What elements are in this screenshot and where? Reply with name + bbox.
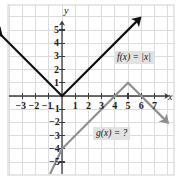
y-tick-label: −4: [49, 144, 60, 154]
coordinate-plane: [0, 0, 177, 177]
x-tick-label: 3: [99, 101, 104, 111]
y-tick-label: 3: [54, 51, 59, 61]
y-tick-label: −2: [49, 117, 60, 127]
y-tick-label: 2: [54, 65, 59, 75]
f-function-label: f(x) = |x|: [114, 51, 154, 64]
x-axis-label: x: [168, 92, 172, 102]
x-tick-label: 1: [73, 101, 78, 111]
x-tick-label: 5: [126, 101, 131, 111]
y-tick-label: 4: [54, 38, 59, 48]
y-tick-label: −1: [49, 104, 60, 114]
y-tick-label: 1: [54, 78, 59, 88]
x-tick-label: −2: [29, 101, 40, 111]
x-tick-label: 6: [139, 101, 144, 111]
x-tick-label: 2: [86, 101, 91, 111]
x-tick-label: 7: [152, 101, 157, 111]
g-function-label: g(x) = ?: [93, 127, 130, 140]
y-tick-label: −5: [49, 157, 60, 167]
graph-figure: y x −3−2−11234567 54321−1−2−3−4−5 f(x) =…: [0, 0, 177, 177]
x-tick-label: −3: [15, 101, 26, 111]
y-tick-label: 5: [54, 25, 59, 35]
y-axis-label: y: [64, 6, 68, 16]
y-tick-label: −3: [49, 131, 60, 141]
x-tick-label: 4: [112, 101, 117, 111]
